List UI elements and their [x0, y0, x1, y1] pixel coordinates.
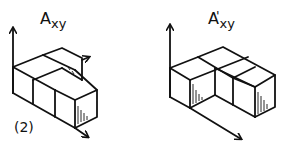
left-title: Axy	[40, 9, 67, 31]
left-cube-stack	[13, 48, 97, 128]
right-figure: A'xy	[170, 8, 275, 139]
right-x-axis-arrow	[190, 108, 241, 139]
left-figure: Axy	[13, 9, 97, 137]
left-figure-tag: (2)	[14, 119, 34, 135]
left-y-axis-arrow	[82, 57, 89, 60]
cube-diagram: Axy	[0, 0, 290, 156]
right-cube-stack	[170, 47, 275, 117]
left-x-axis-arrow	[75, 128, 88, 137]
right-title: A'xy	[208, 8, 235, 31]
